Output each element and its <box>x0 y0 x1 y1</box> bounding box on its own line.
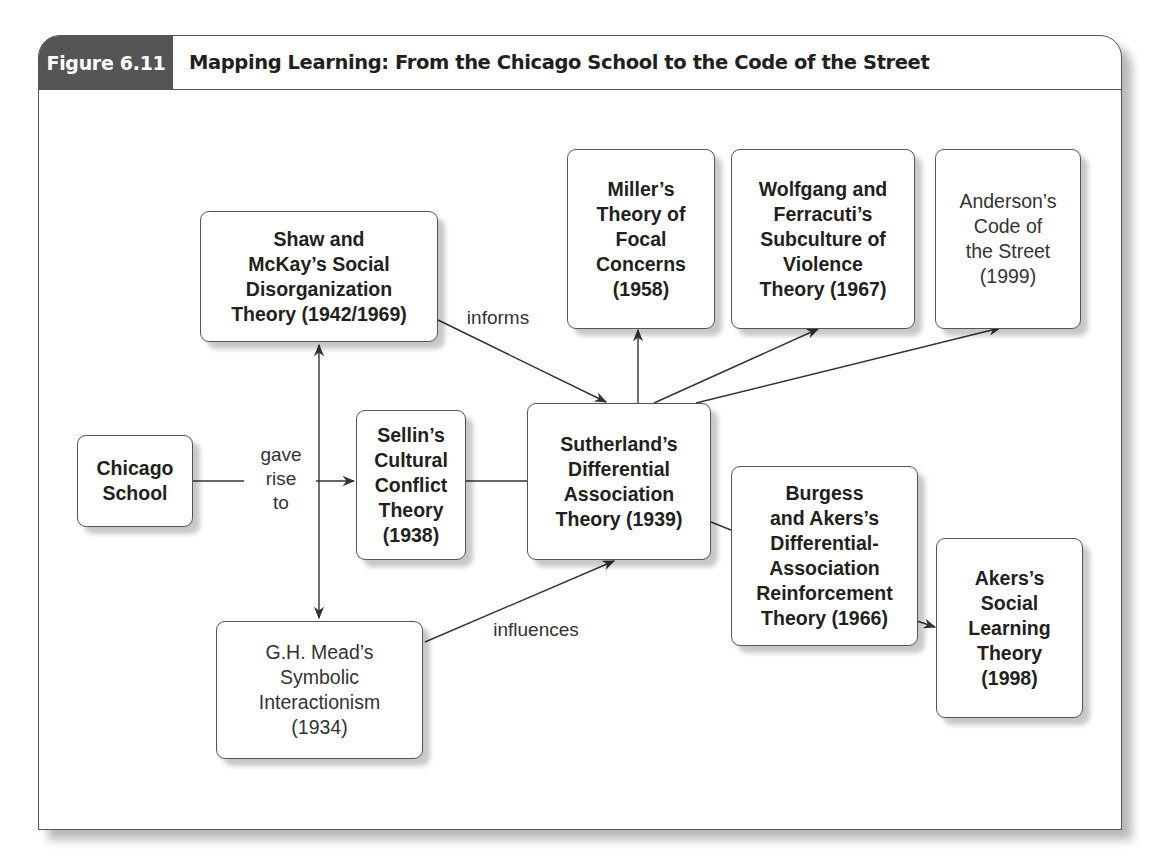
node-chicago-school: Chicago School <box>77 435 193 527</box>
node-miller: Miller’s Theory of Focal Concerns (1958) <box>567 149 715 329</box>
node-shaw-mckay: Shaw and McKay’s Social Disorganization … <box>200 211 438 342</box>
node-wolfgang-ferracuti: Wolfgang and Ferracuti’s Subculture of V… <box>731 149 915 329</box>
node-akers: Akers’s Social Learning Theory (1998) <box>936 538 1083 718</box>
figure-number: Figure 6.11 <box>39 36 173 89</box>
node-sutherland: Sutherland’s Differential Association Th… <box>527 403 711 560</box>
edge-label-informs: informs <box>448 306 548 330</box>
node-sellin: Sellin’s Cultural Conflict Theory (1938) <box>356 410 466 560</box>
figure-title: Mapping Learning: From the Chicago Schoo… <box>189 36 929 89</box>
node-mead: G.H. Mead’s Symbolic Interactionism (193… <box>216 621 423 759</box>
edge-label-gave-rise-to: gave rise to <box>246 443 316 515</box>
edge-label-influences: influences <box>476 618 596 642</box>
node-burgess-akers: Burgess and Akers’s Differential- Associ… <box>731 466 918 646</box>
node-anderson: Anderson’s Code of the Street (1999) <box>935 149 1081 329</box>
figure-header: Figure 6.11 Mapping Learning: From the C… <box>39 36 1121 90</box>
